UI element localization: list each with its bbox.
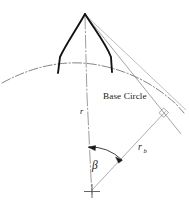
base-circle-label: Base Circle [103,91,147,101]
base-radius-label-main: r [138,141,142,152]
diagram-background [0,0,189,213]
figure-canvas: Base Circle r r b β [0,0,189,213]
beta-angle-label: β [91,159,98,172]
gear-geometry-diagram: Base Circle r r b β [0,0,189,213]
